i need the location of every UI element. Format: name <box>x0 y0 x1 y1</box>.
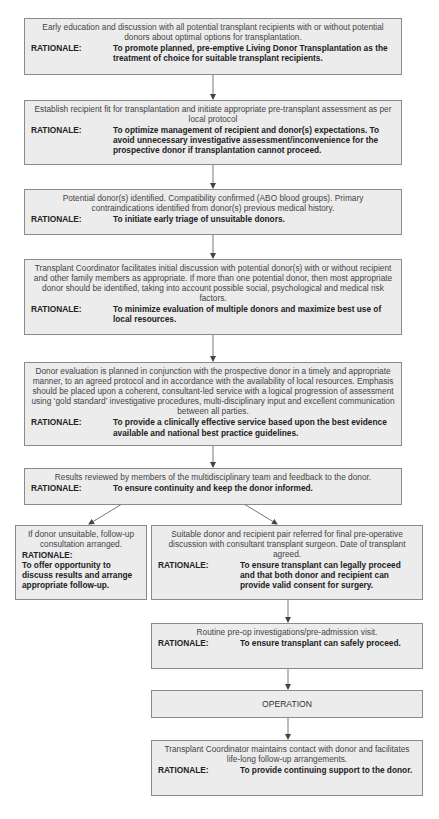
step-description: Routine pre-op investigations/pre-admiss… <box>158 627 416 637</box>
rationale-label: RATIONALE: <box>158 560 240 590</box>
rationale-row: RATIONALE: To provide continuing support… <box>158 765 416 775</box>
rationale-text: To ensure transplant can legally proceed… <box>240 560 416 590</box>
rationale-label: RATIONALE: <box>31 304 113 324</box>
step-description: Potential donor(s) identified. Compatibi… <box>31 193 395 213</box>
step-description: Establish recipient fit for transplantat… <box>31 104 395 124</box>
step-description: Results reviewed by members of the multi… <box>31 472 395 482</box>
rationale-label: RATIONALE: <box>31 125 113 155</box>
rationale-text: To promote planned, pre-emptive Living D… <box>113 43 395 63</box>
step-donor-identified: Potential donor(s) identified. Compatibi… <box>24 189 402 235</box>
rationale-label: RATIONALE: <box>31 417 113 437</box>
step-early-education: Early education and discussion with all … <box>24 18 402 75</box>
rationale-row: RATIONALE: To offer opportunity to discu… <box>22 550 140 590</box>
rationale-text: To ensure continuity and keep the donor … <box>113 483 313 493</box>
rationale-text: To optimize management of recipient and … <box>113 125 395 155</box>
step-donor-unsuitable: If donor unsuitable, follow-up consultat… <box>15 525 147 600</box>
rationale-label: RATIONALE: <box>22 550 140 560</box>
step-operation: OPERATION <box>151 690 423 718</box>
rationale-text: To ensure transplant can safely proceed. <box>240 638 401 648</box>
rationale-text: To provide continuing support to the don… <box>240 765 412 775</box>
rationale-label: RATIONALE: <box>31 43 113 63</box>
rationale-row: RATIONALE: To provide a clinically effec… <box>31 417 395 437</box>
step-description: Donor evaluation is planned in conjuncti… <box>31 366 395 416</box>
step-description: OPERATION <box>262 699 312 709</box>
rationale-row: RATIONALE: To ensure transplant can safe… <box>158 638 416 648</box>
rationale-label: RATIONALE: <box>158 638 240 648</box>
rationale-text: To offer opportunity to discuss results … <box>22 560 132 590</box>
step-description: Transplant Coordinator facilitates initi… <box>31 263 395 303</box>
rationale-label: RATIONALE: <box>158 765 240 775</box>
step-description: Early education and discussion with all … <box>31 22 395 42</box>
step-results-reviewed: Results reviewed by members of the multi… <box>24 468 402 505</box>
rationale-row: RATIONALE: To ensure continuity and keep… <box>31 483 395 493</box>
rationale-label: RATIONALE: <box>31 214 113 224</box>
rationale-row: RATIONALE: To initiate early triage of u… <box>31 214 395 224</box>
step-description: Transplant Coordinator maintains contact… <box>158 744 416 764</box>
rationale-row: RATIONALE: To minimize evaluation of mul… <box>31 304 395 324</box>
rationale-row: RATIONALE: To optimize management of rec… <box>31 125 395 155</box>
rationale-text: To initiate early triage of unsuitable d… <box>113 214 285 224</box>
step-recipient-fit: Establish recipient fit for transplantat… <box>24 100 402 165</box>
rationale-row: RATIONALE: To ensure transplant can lega… <box>158 560 416 590</box>
step-donor-evaluation: Donor evaluation is planned in conjuncti… <box>24 362 402 446</box>
rationale-text: To provide a clinically effective servic… <box>113 417 395 437</box>
step-coordinator-discussion: Transplant Coordinator facilitates initi… <box>24 259 402 335</box>
step-description: Suitable donor and recipient pair referr… <box>158 529 416 559</box>
step-description: If donor unsuitable, follow-up consultat… <box>22 529 140 549</box>
step-pair-referred: Suitable donor and recipient pair referr… <box>151 525 423 600</box>
step-follow-up: Transplant Coordinator maintains contact… <box>151 740 423 796</box>
step-pre-op: Routine pre-op investigations/pre-admiss… <box>151 623 423 669</box>
rationale-text: To minimize evaluation of multiple donor… <box>113 304 395 324</box>
rationale-row: RATIONALE: To promote planned, pre-empti… <box>31 43 395 63</box>
rationale-label: RATIONALE: <box>31 483 113 493</box>
